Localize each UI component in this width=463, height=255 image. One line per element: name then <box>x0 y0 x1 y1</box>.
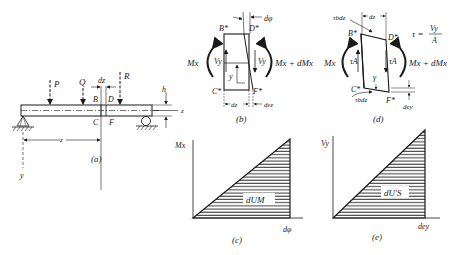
d-shear-left-label: τA <box>350 57 358 66</box>
depth-h-label: h <box>162 85 166 94</box>
angle-gamma-label: γ <box>373 73 377 82</box>
panel-c-moment-energy-plot: dUM Mx dφ (c) <box>174 139 303 245</box>
moment-right-label: Mx + dMx <box>274 58 313 68</box>
load-r-arrow: R <box>120 71 130 104</box>
d-width-dz-label: dz <box>369 13 376 21</box>
z-distance-label: z <box>59 136 63 144</box>
caption-c: (c) <box>232 235 242 245</box>
dz-label: dz <box>98 76 106 85</box>
axis-z-label: z <box>180 107 184 115</box>
d-moment-right-arrow <box>400 48 406 77</box>
e-energy-area <box>333 130 425 218</box>
top-shear-label: τbdz <box>333 14 346 22</box>
roller-support <box>136 117 158 131</box>
e-x-axis-label: dey <box>418 222 430 231</box>
point-f-label: F <box>108 118 114 127</box>
load-r-label: R <box>123 71 130 81</box>
caption-b: (b) <box>236 114 247 124</box>
caption-e: (e) <box>372 232 382 242</box>
corner-b-star: B* <box>219 24 228 33</box>
pin-support <box>12 116 34 131</box>
depth-dimension: h z <box>152 85 184 128</box>
moment-left-arrow <box>208 48 214 77</box>
panel-b-bending-element: dφ B* D* C* F* Mx Mx + dMx Vy Vy y dz dε… <box>186 12 313 124</box>
equation-numerator: Vy <box>430 24 438 33</box>
c-y-axis-label: Mx <box>174 141 186 150</box>
deflection-dey-label: dey <box>403 103 414 111</box>
load-p-label: P <box>53 79 60 89</box>
d-moment-left-arrow <box>343 48 349 77</box>
d-shear-right-label: τA <box>389 57 397 66</box>
point-b-label: B <box>93 95 98 104</box>
bottom-shear-label: τbdz <box>355 96 368 104</box>
d-corner-b-star: B* <box>348 29 357 38</box>
corner-f-star: F* <box>252 87 262 96</box>
equation-denominator: A <box>431 36 437 45</box>
panel-e-shear-energy-plot: dU'S Vy dey (e) <box>321 130 440 242</box>
moment-left-label: Mx <box>186 58 199 68</box>
c-area-label: dUM <box>246 195 265 205</box>
c-energy-area <box>193 139 290 218</box>
d-corner-c-star: C* <box>351 85 360 94</box>
strain-energy-figure: P Q R dz B D C F <box>0 0 463 255</box>
d-moment-right-label: Mx + dMx <box>408 58 447 68</box>
panel-d-shear-element: dz τbdz B* D* C* F* τ = Vy A Mx Mx + dMx… <box>323 12 447 124</box>
caption-d: (d) <box>373 114 384 124</box>
corner-d-star: D* <box>248 24 259 33</box>
caption-a: (a) <box>91 154 102 164</box>
c-x-axis-label: dφ <box>283 225 292 234</box>
strain-dez-label: dεz <box>264 101 273 109</box>
point-c-label: C <box>93 118 99 127</box>
rotation-dphi-label: dφ <box>264 14 273 23</box>
d-corner-f-star: F* <box>385 96 395 105</box>
corner-c-star: C* <box>212 87 221 96</box>
load-q-label: Q <box>79 77 86 87</box>
panel-a-beam: P Q R dz B D C F <box>12 71 184 190</box>
fiber-y-label: y <box>228 72 233 81</box>
d-moment-left-label: Mx <box>323 58 336 68</box>
point-d-label: D <box>107 95 114 104</box>
e-area-label: dU'S <box>384 188 402 198</box>
e-y-axis-label: Vy <box>321 139 329 148</box>
shear-left-label: Vy <box>214 57 222 66</box>
shear-stress-equation: τ = Vy A <box>412 24 442 45</box>
d-corner-d-star: D* <box>387 33 398 42</box>
load-p-arrow: P <box>50 79 60 104</box>
moment-right-arrow <box>266 48 272 77</box>
load-q-arrow: Q <box>79 77 86 104</box>
equation-lhs: τ = <box>412 29 424 39</box>
width-dz-label: dz <box>231 101 238 109</box>
axis-y-label: y <box>19 171 24 180</box>
z-dimension: z <box>24 136 100 144</box>
shear-right-label: Vy <box>258 57 266 66</box>
